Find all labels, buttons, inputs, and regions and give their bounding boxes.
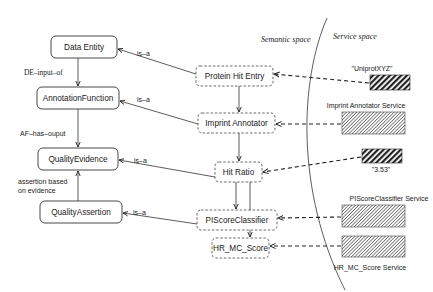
service-value-3-53[interactable]: "3.53" (362, 149, 402, 173)
node-annotation-function[interactable]: AnnotationFunction (37, 87, 119, 109)
node-label: Hit Ratio (223, 168, 255, 177)
binding-uniprot-to-protein (274, 74, 369, 83)
node-label: QualityAssertion (51, 208, 111, 217)
node-imprint-annotator[interactable]: Imprint Annotator (198, 113, 275, 133)
service-label: PIScoreClassifier Service (350, 195, 429, 202)
node-label: PIScoreClassifier (206, 216, 269, 225)
service-space-label: Service space (333, 32, 377, 41)
edge-label-af-has-output: AF–has–ouput (20, 130, 66, 138)
edge-isa-imprint (120, 101, 198, 124)
node-label: Data Entity (64, 43, 105, 52)
node-label: Protein Hit Entry (205, 72, 266, 81)
service-piscore-classifier[interactable]: PIScoreClassifier Service (342, 195, 429, 227)
node-quality-assertion[interactable]: QualityAssertion (40, 201, 122, 223)
edge-label-assertion-line1: assertion based (18, 178, 68, 185)
node-label: AnnotationFunction (43, 94, 114, 103)
service-block-icon (342, 236, 405, 257)
isa-label-2: is–a (137, 96, 150, 103)
node-piscore-classifier[interactable]: PIScoreClassifier (197, 210, 277, 230)
node-label: Imprint Annotator (205, 119, 268, 128)
node-data-entity[interactable]: Data Entity (51, 36, 117, 58)
edge-label-de-input-of: DE–input–of (24, 68, 63, 77)
service-imprint-annotator[interactable]: Imprint Annotator Service (327, 102, 406, 134)
isa-label-1: is–a (137, 50, 150, 57)
edge-label-assertion-line2: on evidence (18, 187, 56, 194)
semantic-space-label: Semantic space (261, 35, 311, 44)
node-label: QualityEvidence (48, 155, 108, 164)
diagram-canvas: Semantic space Service space Data Entity… (0, 0, 433, 292)
node-protein-hit-entry[interactable]: Protein Hit Entry (196, 66, 273, 86)
node-hr-mc-score[interactable]: HR_MC_Score (212, 238, 269, 258)
node-label: HR_MC_Score (213, 244, 269, 253)
edge-isa-protein (118, 49, 196, 74)
isa-label-4: is–a (133, 209, 146, 216)
service-label: "UniprotXYZ" (351, 65, 393, 73)
isa-label-3: is–a (134, 157, 147, 164)
node-hit-ratio[interactable]: Hit Ratio (215, 162, 262, 182)
node-quality-evidence[interactable]: QualityEvidence (38, 148, 118, 170)
space-divider-curve (307, 18, 345, 290)
service-label: HR_MC_Score Service (334, 264, 406, 272)
service-block-icon (342, 112, 405, 134)
service-label: "3.53" (372, 166, 391, 173)
binding-3-53-to-hitratio (263, 157, 361, 172)
service-block-icon (342, 205, 405, 227)
data-block-icon (362, 149, 402, 163)
binding-piscore-service (278, 217, 341, 218)
service-label: Imprint Annotator Service (327, 102, 406, 110)
data-block-icon (370, 75, 410, 90)
service-uniprot-xyz[interactable]: "UniprotXYZ" (351, 65, 410, 90)
service-hr-mc-score[interactable]: HR_MC_Score Service (334, 236, 406, 272)
